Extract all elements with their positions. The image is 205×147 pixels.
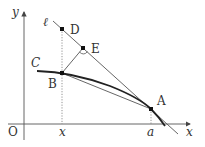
geometry-diagram: y x O ℓ C D E B A x a [0, 0, 205, 147]
y-axis-label: y [11, 5, 19, 19]
tick-label-x: x [59, 125, 66, 139]
perpendicular-BE [62, 48, 83, 73]
right-angle-mark [80, 52, 88, 54]
point-B [60, 71, 64, 75]
tick-label-a: a [147, 125, 154, 139]
x-axis-label: x [186, 125, 193, 139]
curve-label-C: C [31, 56, 40, 70]
chord-BA [62, 73, 151, 109]
origin-label: O [8, 125, 18, 139]
point-E [81, 46, 85, 50]
line-label-l: ℓ [43, 15, 48, 29]
point-label-E: E [91, 42, 100, 56]
point-A [149, 107, 153, 111]
point-label-D: D [70, 23, 80, 37]
point-label-A: A [156, 94, 166, 108]
point-label-B: B [48, 77, 57, 91]
point-D [60, 27, 64, 31]
